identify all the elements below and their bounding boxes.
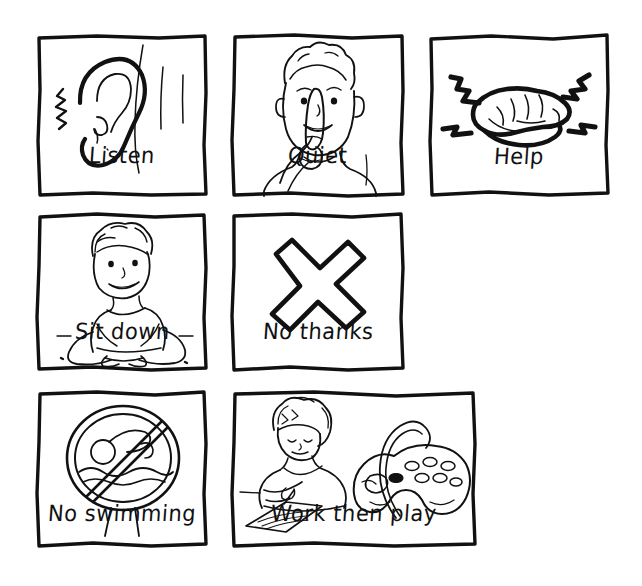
- card-quiet-label: Quiet: [287, 143, 348, 168]
- card-help-label-wrap: Help: [427, 145, 611, 169]
- card-listen-label: Listen: [88, 143, 156, 168]
- card-listen-artwork: [35, 33, 209, 198]
- card-no-swimming-label-wrap: No swimming: [35, 502, 209, 526]
- card-listen-label-wrap: Listen: [35, 144, 209, 168]
- card-work-then-play[interactable]: Work then play: [230, 390, 478, 548]
- picture-card-sheet: Listen: [0, 0, 642, 586]
- card-no-swimming-label: No swimming: [47, 501, 197, 526]
- card-listen[interactable]: Listen: [35, 33, 209, 198]
- card-work-then-play-label: Work then play: [270, 501, 438, 526]
- card-work-then-play-label-wrap: Work then play: [230, 502, 478, 526]
- card-sit-down-label: Sit down: [74, 319, 171, 344]
- card-help[interactable]: Help: [427, 33, 611, 198]
- card-quiet[interactable]: Quiet: [230, 33, 406, 198]
- card-no-thanks[interactable]: No thanks: [230, 212, 406, 372]
- card-no-thanks-artwork: [230, 212, 406, 372]
- card-sit-down-artwork: [35, 212, 209, 372]
- card-help-label: Help: [493, 144, 545, 169]
- card-no-thanks-label: No thanks: [262, 319, 374, 344]
- card-no-swimming[interactable]: No swimming: [35, 390, 209, 548]
- card-help-artwork: [427, 33, 611, 198]
- card-quiet-artwork: [230, 33, 406, 198]
- card-sit-down-label-wrap: Sit down: [35, 320, 209, 344]
- card-quiet-label-wrap: Quiet: [230, 144, 406, 168]
- card-sit-down[interactable]: Sit down: [35, 212, 209, 372]
- card-no-thanks-label-wrap: No thanks: [230, 320, 406, 344]
